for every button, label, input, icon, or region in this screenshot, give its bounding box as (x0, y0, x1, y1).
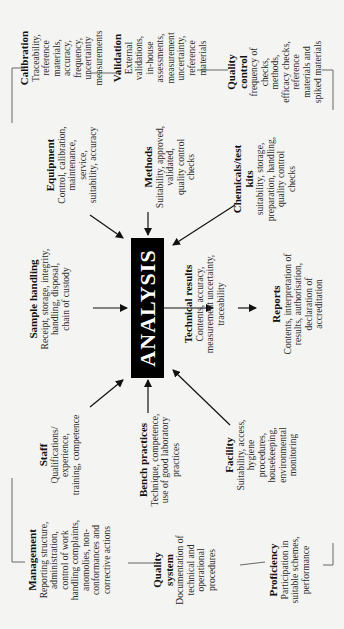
methods-desc: Suitability, approved, validated, qualit… (155, 126, 197, 208)
sample-handling-title: Sample handling (28, 249, 40, 350)
calibration-block: Calibration Traceability, reference mate… (19, 29, 105, 87)
reports-desc: Contents, interpretation of results, aut… (283, 254, 325, 355)
facility-desc: Suitability, access, hygiene procedures,… (236, 419, 300, 490)
analysis-quality-diagram: ANALYSIS Management Reporting structure,… (0, 0, 344, 629)
chemicals-block: Chemicals/test kits suitability, storage… (232, 137, 297, 221)
quality-system-block: Quality system Documentation of technica… (152, 535, 217, 605)
validation-title: Validation (112, 29, 124, 87)
management-block: Management Reporting structure, administ… (27, 520, 113, 600)
technical-results-block: Technical results Contents, accuracy, me… (183, 255, 226, 353)
facility-block: Facility Suitability, access, hygiene pr… (224, 419, 299, 490)
management-title: Management (27, 520, 39, 600)
bench-practices-title: Bench practices (138, 414, 150, 507)
methods-title: Methods (143, 126, 155, 208)
sample-handling-desc: Receipt, storage, integrity, handling, d… (40, 249, 72, 350)
technical-results-desc: Contents, accuracy, measurement uncertai… (195, 255, 227, 353)
reports-title: Reports (271, 254, 283, 355)
technical-results-title: Technical results (183, 255, 195, 353)
equipment-desc: Control, calibration, maintenance, servi… (57, 126, 99, 204)
validation-block: Validation External validations, in-hous… (112, 29, 208, 87)
chemicals-desc: suitability, storage, preparation, handl… (255, 137, 297, 221)
staff-desc: Qualifications/ experience, training, co… (50, 415, 82, 495)
chemicals-title: Chemicals/test kits (232, 137, 255, 221)
calibration-title: Calibration (19, 29, 31, 87)
analysis-label: ANALYSIS (135, 249, 161, 366)
quality-system-desc: Documentation of technical and operation… (175, 535, 217, 605)
bench-practices-desc: Technique, competence, use of good labor… (150, 414, 182, 507)
quality-control-block: Quality control frequency of checks, met… (226, 36, 323, 108)
methods-block: Methods Suitability, approved, validated… (143, 126, 197, 208)
proficiency-block: Proficiency Participation in suitable sc… (268, 536, 311, 603)
proficiency-desc: Participation in suitable schemes, perfo… (280, 536, 312, 603)
sample-handling-block: Sample handling Receipt, storage, integr… (28, 249, 71, 350)
proficiency-title: Proficiency (268, 536, 280, 603)
validation-desc: External validations, in-house assessmen… (123, 29, 208, 87)
analysis-center-box: ANALYSIS (131, 238, 164, 378)
management-desc: Reporting structure, administration, con… (39, 520, 113, 600)
staff-title: Staff (38, 415, 50, 495)
equipment-title: Equipment (45, 126, 57, 204)
reports-block: Reports Contents, interpretation of resu… (271, 254, 325, 355)
quality-control-desc: frequency of checks, methods, efficacy c… (249, 36, 323, 108)
facility-title: Facility (224, 419, 236, 490)
staff-block: Staff Qualifications/ experience, traini… (38, 415, 81, 495)
bench-practices-block: Bench practices Technique, competence, u… (138, 414, 181, 507)
calibration-desc: Traceability, reference materials, accur… (31, 29, 105, 87)
quality-control-title: Quality control (226, 36, 249, 108)
equipment-block: Equipment Control, calibration, maintena… (45, 126, 99, 204)
quality-system-title: Quality system (152, 535, 175, 605)
